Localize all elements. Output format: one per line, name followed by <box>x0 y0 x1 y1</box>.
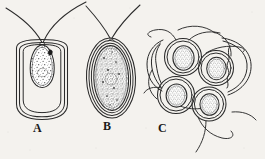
figure-illustration: A B C <box>0 0 265 159</box>
illustration-canvas <box>0 0 265 159</box>
panel-label-c: C <box>158 122 167 134</box>
panel-label-a: A <box>33 122 42 134</box>
protoplast-a <box>30 45 54 88</box>
panel-label-b: B <box>103 120 111 132</box>
